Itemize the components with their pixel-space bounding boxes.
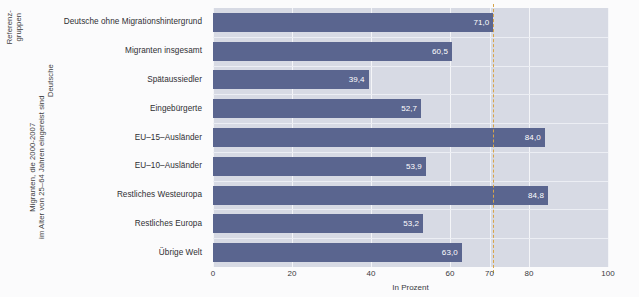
- axis-tick-label: 60: [446, 269, 455, 278]
- category-label: Restliches Europa: [52, 219, 202, 228]
- category-label: EU–10–Ausländer: [52, 161, 202, 170]
- group-label-reference-line2: gruppen: [14, 13, 23, 42]
- value-axis: 02040607080100 In Prozent: [213, 267, 608, 297]
- group-label-migrants: Migranten, die 2000-2007 im Alter von 25…: [28, 86, 46, 248]
- bar-value-label: 84,8: [213, 186, 548, 205]
- group-label-migrants-line2: im Alter von 25–64 Jahren eingereist sin…: [37, 96, 46, 239]
- axis-tick-label: 40: [367, 269, 376, 278]
- bar-value-label: 39,4: [213, 70, 369, 89]
- row-separator: [213, 209, 608, 210]
- category-label: Migranten insgesamt: [52, 46, 202, 55]
- category-label: EU–15–Ausländer: [52, 133, 202, 142]
- category-label: Spätaussiedler: [52, 75, 202, 84]
- axis-tick-label: 70: [485, 269, 494, 278]
- row-separator: [213, 123, 608, 124]
- bar-value-label: 63,0: [213, 243, 462, 262]
- bar-value-label: 53,9: [213, 157, 426, 176]
- plot-panel: 71,060,539,452,784,053,984,853,263,0: [213, 8, 608, 267]
- axis-tick-label: 100: [601, 269, 614, 278]
- row-separator: [213, 37, 608, 38]
- group-label-reference: Referenz- gruppen: [5, 0, 23, 63]
- axis-tick-label: 80: [525, 269, 534, 278]
- gridline: [608, 8, 609, 267]
- axis-tick-label: 0: [211, 269, 215, 278]
- category-label: Übrige Welt: [52, 248, 202, 257]
- row-separator: [213, 94, 608, 95]
- row-separator: [213, 238, 608, 239]
- axis-tick-label: 20: [288, 269, 297, 278]
- row-separator: [213, 152, 608, 153]
- bar-value-label: 71,0: [213, 13, 493, 32]
- category-label: Deutsche ohne Migrationshintergrund: [52, 17, 202, 26]
- reference-line: [493, 4, 494, 273]
- row-separator: [213, 181, 608, 182]
- bar-value-label: 60,5: [213, 42, 452, 61]
- bar-value-label: 84,0: [213, 128, 545, 147]
- bar-value-label: 53,2: [213, 214, 423, 233]
- group-label-migrants-line1: Migranten, die 2000-2007: [28, 123, 37, 212]
- category-label: Restliches Westeuropa: [52, 190, 202, 199]
- bar-value-label: 52,7: [213, 99, 421, 118]
- chart-figure: Referenz- gruppen Deutsche Migranten, di…: [0, 0, 639, 297]
- group-label-reference-line1: Referenz-: [5, 10, 14, 44]
- row-separator: [213, 66, 608, 67]
- category-label: Eingebürgerte: [52, 104, 202, 113]
- axis-title: In Prozent: [213, 283, 608, 292]
- category-axis-labels: Deutsche ohne MigrationshintergrundMigra…: [56, 8, 206, 267]
